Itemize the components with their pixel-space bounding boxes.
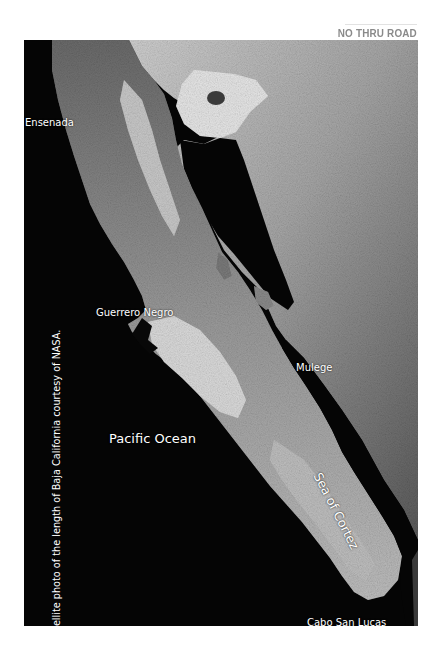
label-mulege: Mulege <box>296 362 332 373</box>
satellite-map: Ensenada Guerrero Negro Mulege Pacific O… <box>24 40 418 626</box>
label-pacific-ocean: Pacific Ocean <box>109 431 196 446</box>
label-ensenada: Ensenada <box>25 117 74 128</box>
photo-credit-caption: Satellite photo of the length of Baja Ca… <box>51 330 62 626</box>
page-header-title: NO THRU ROAD <box>338 27 417 39</box>
label-guerrero-negro: Guerrero Negro <box>96 307 173 318</box>
dark-crater <box>207 91 225 105</box>
header-divider <box>345 24 417 25</box>
page: NO THRU ROAD <box>0 0 441 653</box>
label-cabo-san-lucas: Cabo San Lucas <box>307 617 386 626</box>
